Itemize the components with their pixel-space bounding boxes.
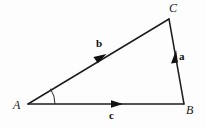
vertex-label-A: A	[13, 99, 20, 111]
angle-arc-at-A	[50, 89, 55, 104]
vector-triangle-figure: A B C a b c	[0, 0, 206, 127]
vector-label-b: b	[96, 38, 102, 49]
vector-label-c: c	[109, 110, 114, 121]
vertex-label-B: B	[186, 104, 193, 116]
triangle-diagram-canvas	[0, 0, 206, 127]
vertex-label-C: C	[169, 2, 177, 14]
vector-label-a: a	[179, 51, 185, 62]
arrowhead-vector-c	[111, 100, 123, 107]
